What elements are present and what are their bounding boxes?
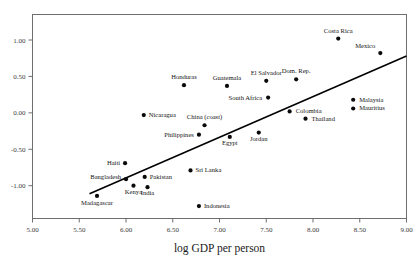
data-point[interactable]: Madagascar (81, 194, 114, 206)
point-label: China (coast) (187, 113, 222, 121)
x-axis-title-group: log GDP per person (174, 242, 265, 255)
point-label: India (141, 189, 155, 196)
data-point[interactable]: Sri Lanka (188, 166, 221, 173)
point-marker[interactable] (142, 113, 146, 117)
point-label: Mauritius (359, 104, 385, 111)
point-label: Colombia (296, 107, 322, 114)
x-tick-label: 7.50 (260, 226, 273, 234)
point-label: Nicaragua (149, 111, 176, 118)
data-point[interactable]: El Salvador (251, 69, 283, 83)
data-point[interactable]: Pakistan (143, 173, 173, 180)
x-axis-ticks: 5.005.506.006.507.007.508.008.509.00 (26, 219, 413, 234)
data-point[interactable]: Jordan (250, 130, 268, 141)
point-label: Kenya (125, 188, 142, 195)
y-tick-label: 0.00 (13, 109, 26, 117)
data-point[interactable]: Costa Rica (324, 27, 353, 41)
point-marker[interactable] (143, 175, 147, 179)
data-point[interactable]: Mauritius (351, 104, 385, 111)
data-point[interactable]: Honduras (171, 73, 197, 87)
point-label: Sri Lanka (196, 166, 222, 173)
point-marker[interactable] (378, 51, 382, 55)
data-point[interactable]: Dom. Rep. (282, 67, 311, 81)
x-tick-label: 8.00 (307, 226, 320, 234)
point-marker[interactable] (264, 79, 268, 83)
x-axis-title: log GDP per person (174, 242, 265, 255)
chart-svg: 5.005.506.006.507.007.508.008.509.00 1.0… (0, 0, 417, 259)
point-label: Madagascar (81, 199, 114, 206)
point-label: Thailand (312, 115, 336, 122)
point-label: Egypt (222, 139, 238, 146)
x-tick-label: 6.00 (120, 226, 133, 234)
y-tick-label: 0.50 (13, 73, 26, 81)
point-label: Haiti (107, 159, 120, 166)
regression-line (90, 56, 407, 194)
x-tick-label: 9.00 (400, 226, 413, 234)
data-points: Costa RicaMexicoHondurasGuatemalaEl Salv… (81, 27, 385, 210)
trend-line-group (90, 56, 407, 194)
y-tick-label: -1.00 (11, 182, 26, 190)
data-point[interactable]: China (coast) (187, 113, 222, 127)
data-point[interactable]: Haiti (107, 159, 127, 166)
data-point[interactable]: Philippines (164, 131, 201, 138)
x-tick-label: 6.50 (167, 226, 180, 234)
data-point[interactable]: Egypt (222, 135, 238, 146)
x-tick-label: 5.00 (26, 226, 39, 234)
point-marker[interactable] (294, 77, 298, 81)
point-marker[interactable] (351, 98, 355, 102)
point-marker[interactable] (336, 36, 340, 40)
point-label: Indonesia (204, 202, 230, 209)
point-label: Dom. Rep. (282, 67, 311, 74)
point-marker[interactable] (351, 106, 355, 110)
point-marker[interactable] (225, 84, 229, 88)
x-tick-label: 7.00 (213, 226, 226, 234)
point-marker[interactable] (95, 194, 99, 198)
point-marker[interactable] (123, 161, 127, 165)
scatter-chart: 5.005.506.006.507.007.508.008.509.00 1.0… (0, 0, 417, 259)
data-point[interactable]: India (141, 185, 155, 196)
data-point[interactable]: Mexico (355, 42, 382, 55)
data-point[interactable]: Guatemala (213, 74, 242, 88)
x-tick-label: 5.50 (73, 226, 86, 234)
point-label: Mexico (355, 42, 376, 49)
data-point[interactable]: Nicaragua (142, 111, 176, 118)
point-label: Guatemala (213, 74, 242, 81)
data-point[interactable]: Colombia (288, 107, 322, 114)
point-label: South Africa (229, 94, 263, 101)
point-label: Bangladesh (90, 173, 121, 180)
point-label: Philippines (164, 131, 194, 138)
point-marker[interactable] (266, 95, 270, 99)
point-marker[interactable] (182, 83, 186, 87)
point-label: Honduras (171, 73, 197, 80)
point-label: Malaysia (359, 96, 383, 103)
x-tick-label: 8.50 (354, 226, 367, 234)
y-tick-label: -0.50 (11, 146, 26, 154)
point-marker[interactable] (197, 133, 201, 137)
point-marker[interactable] (288, 109, 292, 113)
data-point[interactable]: Malaysia (351, 96, 383, 103)
data-point[interactable]: Thailand (303, 115, 335, 122)
data-point[interactable]: South Africa (229, 94, 271, 101)
point-marker[interactable] (303, 117, 307, 121)
y-tick-label: 1.00 (13, 37, 26, 45)
point-marker[interactable] (197, 204, 201, 208)
point-label: Costa Rica (324, 27, 353, 34)
point-marker[interactable] (124, 177, 128, 181)
y-axis-ticks: 1.000.500.00-0.50-1.00 (11, 37, 33, 191)
point-label: Pakistan (150, 173, 173, 180)
data-point[interactable]: Kenya (125, 184, 142, 195)
point-marker[interactable] (202, 123, 206, 127)
point-label: Jordan (250, 135, 268, 142)
point-marker[interactable] (188, 168, 192, 172)
data-point[interactable]: Indonesia (197, 202, 230, 209)
point-label: El Salvador (251, 69, 283, 76)
